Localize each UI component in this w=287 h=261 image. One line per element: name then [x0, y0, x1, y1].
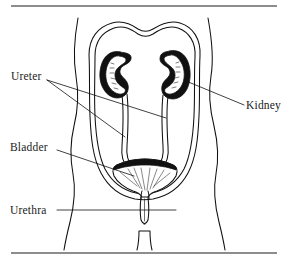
label-bladder: Bladder — [10, 141, 48, 153]
right-kidney-outline — [160, 51, 190, 99]
label-ureter: Ureter — [11, 70, 42, 82]
body-contour-right — [208, 18, 225, 250]
left-kidney-outline — [100, 52, 131, 98]
anatomy-drawing — [0, 0, 287, 261]
perineum-structure — [137, 231, 152, 250]
left-ureter-lateral — [127, 94, 133, 167]
body-contour-left — [64, 18, 78, 250]
urinary-system-figure: Ureter Kidney Bladder Urethra — [0, 0, 287, 261]
label-urethra: Urethra — [10, 204, 47, 216]
label-kidney: Kidney — [246, 99, 281, 111]
right-ureter-lateral — [157, 95, 163, 167]
leader-ureter-left — [47, 80, 125, 137]
